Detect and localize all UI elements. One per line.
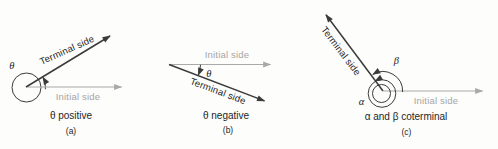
terminal-side-arrow bbox=[326, 15, 383, 91]
panel-c-tag: (c) bbox=[402, 127, 412, 136]
alpha-label: α bbox=[359, 96, 365, 107]
theta-label: θ bbox=[206, 69, 211, 80]
initial-side-label: Initial side bbox=[56, 92, 101, 102]
panel-c-caption: α and β coterminal bbox=[365, 112, 448, 122]
panel-a-caption: θ positive bbox=[50, 111, 92, 121]
initial-side-label: Initial side bbox=[205, 50, 250, 60]
panel-b-caption: θ negative bbox=[203, 111, 249, 121]
beta-label: β bbox=[394, 56, 399, 67]
beta-angle-arc bbox=[373, 72, 403, 92]
panel-b-tag: (b) bbox=[223, 126, 233, 135]
panel-a-tag: (a) bbox=[66, 126, 76, 135]
theta-label: θ bbox=[9, 61, 14, 72]
initial-side-label: Initial side bbox=[414, 96, 459, 106]
negative-angle-arc bbox=[198, 65, 200, 76]
angles-standard-position-figure: Terminal side Initial side θ θ positive … bbox=[0, 0, 498, 149]
alpha-inner-loop bbox=[373, 85, 391, 103]
